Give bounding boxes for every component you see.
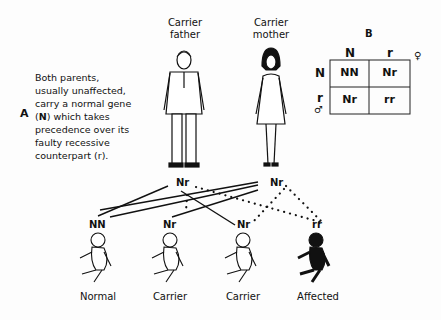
panel-a-label: A xyxy=(20,107,29,120)
text-line: usually unaffected, xyxy=(35,84,155,97)
mother-label-line1: Carrier xyxy=(246,17,296,29)
mother-label-line2: mother xyxy=(246,29,296,41)
father-genotype: Nr xyxy=(176,177,189,188)
text-line: carry a normal gene xyxy=(35,97,155,110)
text-line: counterpart (r). xyxy=(35,149,155,162)
child-4-genotype: rr xyxy=(312,219,322,230)
text-fragment: ) which takes xyxy=(47,111,110,122)
baby-affected xyxy=(298,233,329,282)
child-3-genotype: Nr xyxy=(237,219,250,230)
text-line: (N) which takes xyxy=(35,110,155,123)
cell-nn: NN xyxy=(330,66,369,79)
row-header-r: r xyxy=(317,91,323,105)
child-3-label: Carrier xyxy=(218,291,268,303)
child-2-label: Carrier xyxy=(145,291,195,303)
cell-nr-1: Nr xyxy=(369,66,410,79)
child-2-genotype: Nr xyxy=(163,219,176,230)
cell-rr: rr xyxy=(369,93,410,106)
father-label: Carrier father xyxy=(160,17,210,41)
panel-a-description: Both parents, usually unaffected, carry … xyxy=(35,71,155,162)
father-label-line2: father xyxy=(160,29,210,41)
father-figure xyxy=(164,51,204,167)
baby-carrier-2 xyxy=(225,233,256,282)
mother-figure xyxy=(256,48,286,166)
male-symbol-icon: ♂ xyxy=(314,104,323,115)
text-line: precedence over its xyxy=(35,123,155,136)
row-header-n: N xyxy=(315,66,325,80)
mother-label: Carrier mother xyxy=(246,17,296,41)
child-4-label: Affected xyxy=(290,291,346,303)
child-1-genotype: NN xyxy=(89,219,106,230)
baby-normal xyxy=(80,233,111,282)
baby-carrier-1 xyxy=(152,233,183,282)
cell-nr-2: Nr xyxy=(330,93,369,106)
child-1-label: Normal xyxy=(73,291,123,303)
normal-gene-symbol: N xyxy=(39,111,47,122)
text-line: faulty recessive xyxy=(35,136,155,149)
col-header-n: N xyxy=(345,46,355,60)
mother-genotype: Nr xyxy=(270,177,283,188)
text-line: Both parents, xyxy=(35,71,155,84)
father-label-line1: Carrier xyxy=(160,17,210,29)
female-symbol-icon: ♀ xyxy=(414,50,421,61)
col-header-r: r xyxy=(387,46,393,60)
panel-b-label: B xyxy=(365,28,373,39)
